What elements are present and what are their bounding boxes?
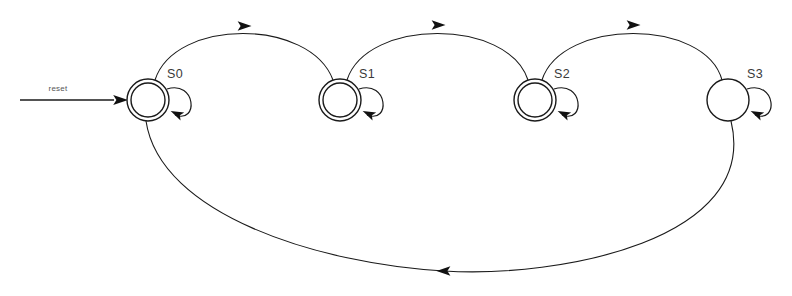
self-loop-arc[interactable] — [359, 88, 383, 116]
state-circle-outer[interactable] — [707, 79, 749, 121]
fsm-canvas: reset S0S1S2S3 — [0, 0, 792, 296]
transition-arrowhead-tip — [432, 20, 446, 29]
transition-arrowhead — [432, 20, 446, 29]
state-circle-outer[interactable] — [514, 79, 556, 121]
self-loop-arrowhead — [169, 107, 184, 120]
state-circle-outer[interactable] — [319, 79, 361, 121]
transition-arrowhead-tip — [627, 20, 641, 29]
self-loop-arrowhead — [556, 107, 571, 120]
reset-label: reset — [49, 84, 68, 93]
state-label-s2: S2 — [554, 67, 570, 81]
self-loop-arc[interactable] — [747, 88, 771, 116]
self-loops-group — [167, 88, 771, 121]
self-loop-s0[interactable] — [167, 88, 191, 121]
transitions-group — [146, 20, 734, 275]
state-label-s3: S3 — [747, 67, 763, 81]
self-loop-arc[interactable] — [167, 88, 191, 116]
transition-arc[interactable] — [146, 121, 734, 272]
transition-arrowhead-tip — [238, 21, 252, 30]
self-loop-s3[interactable] — [747, 88, 771, 121]
self-loop-arrowhead-tip — [361, 107, 376, 120]
self-loop-s2[interactable] — [554, 88, 578, 121]
state-circle-outer[interactable] — [127, 79, 169, 121]
transition-s3-to-s0[interactable] — [146, 121, 734, 276]
states-group: S0S1S2S3 — [127, 67, 763, 121]
self-loop-arrowhead — [361, 107, 376, 120]
transition-arrowhead — [238, 21, 252, 30]
self-loop-arrowhead-tip — [556, 107, 571, 120]
self-loop-s1[interactable] — [359, 88, 383, 121]
self-loop-arrowhead — [749, 107, 764, 120]
state-label-s0: S0 — [167, 67, 183, 81]
self-loop-arc[interactable] — [554, 88, 578, 116]
state-label-s1: S1 — [359, 67, 375, 81]
state-machine-diagram: reset S0S1S2S3 — [0, 0, 792, 296]
initial-arrowhead — [113, 95, 128, 105]
transition-arrowhead — [627, 20, 641, 29]
initial-arrowhead-tip — [113, 95, 128, 105]
self-loop-arrowhead-tip — [169, 107, 184, 120]
initial-transition: reset — [20, 84, 128, 105]
self-loop-arrowhead-tip — [749, 107, 764, 120]
